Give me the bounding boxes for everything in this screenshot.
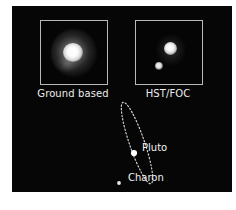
charon-marker xyxy=(117,181,121,185)
orbit-label-charon: Charon xyxy=(128,172,164,183)
hst-charon-point-source xyxy=(155,62,163,70)
observation-panel-ground-based xyxy=(40,20,108,85)
pluto-marker xyxy=(131,150,137,156)
hst-pluto-point-source xyxy=(164,42,177,55)
figure-plate: Ground based HST/FOC Pluto Charon xyxy=(12,6,232,192)
ground-based-bright-core xyxy=(63,43,83,62)
pluto-charon-figure: Ground based HST/FOC Pluto Charon xyxy=(0,0,236,210)
observation-panel-hst-foc xyxy=(135,20,203,85)
orbit-label-pluto: Pluto xyxy=(142,142,167,153)
